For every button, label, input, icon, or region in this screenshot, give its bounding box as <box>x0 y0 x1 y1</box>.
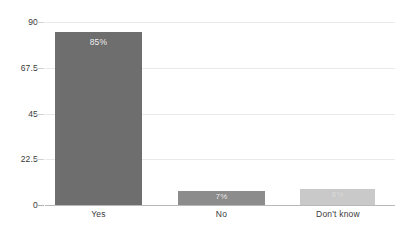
y-tick-label: 45 <box>0 109 38 119</box>
bar-fill <box>55 32 142 205</box>
tick-mark <box>36 22 44 23</box>
bar-value-label: 7% <box>178 192 265 201</box>
bar-yes[interactable]: 85% <box>55 32 142 205</box>
bar-value-label: 85% <box>55 37 142 47</box>
x-tick-label-yes: Yes <box>55 209 142 219</box>
y-tick-label: 22.5 <box>0 154 38 164</box>
x-axis: Yes No Don't know <box>45 209 395 229</box>
x-tick-label-dont-know: Don't know <box>293 209 383 219</box>
bar-chart: 90 67.5 45 22.5 0 85% 7% <box>0 0 412 232</box>
tick-mark <box>36 159 44 160</box>
tick-mark <box>36 68 44 69</box>
bar-value-label: 8% <box>300 190 375 199</box>
bar-no[interactable]: 7% <box>178 191 265 205</box>
x-tick-label-no: No <box>178 209 265 219</box>
axis-baseline <box>45 205 395 206</box>
gridline-90 <box>45 22 395 23</box>
plot-area: 85% 7% 8% <box>45 22 395 205</box>
tick-mark <box>36 205 44 206</box>
tick-mark <box>36 114 44 115</box>
y-tick-label: 90 <box>0 17 38 27</box>
y-tick-label: 0 <box>0 200 38 210</box>
y-tick-label: 67.5 <box>0 63 38 73</box>
bar-dont-know[interactable]: 8% <box>300 189 375 205</box>
